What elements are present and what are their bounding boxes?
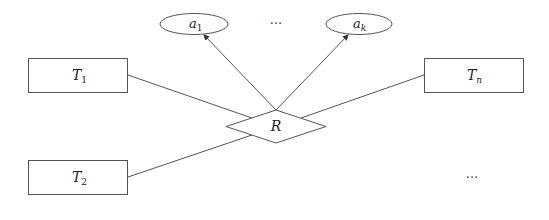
- edge-r-a1: [204, 35, 276, 110]
- edge-r-ak: [276, 35, 348, 110]
- edge-t1-r: [128, 75, 252, 118]
- entity-t2: T2: [29, 161, 128, 195]
- relationship-r-label: R: [270, 118, 282, 134]
- entity-tn: Tn: [425, 59, 524, 93]
- attributes-ellipsis: ···: [270, 16, 282, 31]
- edge-tn-r: [301, 75, 424, 118]
- er-diagram: a1 ··· ak T1 Tn R T2 ···: [0, 0, 549, 220]
- attribute-a1: a1: [160, 14, 228, 35]
- edge-t2-r: [128, 135, 252, 177]
- attribute-ak: ak: [326, 14, 392, 35]
- entity-t1: T1: [29, 59, 128, 93]
- entities-ellipsis: ···: [466, 170, 478, 185]
